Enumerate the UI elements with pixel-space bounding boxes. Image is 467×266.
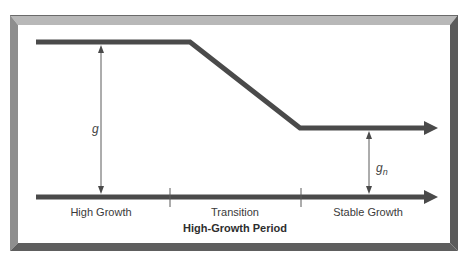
phase-label-transition: Transition xyxy=(211,206,259,218)
phase-label-high-growth: High Growth xyxy=(70,206,131,218)
diagram-canvas: g gn High Growth Transition Stable Growt… xyxy=(0,0,467,266)
phase-label-stable-growth: Stable Growth xyxy=(333,206,403,218)
period-label: High-Growth Period xyxy=(183,222,287,234)
g-label: g xyxy=(92,122,99,136)
